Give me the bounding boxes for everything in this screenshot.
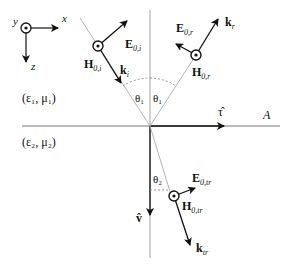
E-reflected-label: E0,r <box>176 21 194 37</box>
theta2-label: θ₂ <box>153 173 162 185</box>
tangent-label: τ̂ <box>218 105 225 119</box>
E-incident-label: E0,i <box>125 37 141 53</box>
upper-medium-label: (ε₁, μ₁) <box>22 91 56 105</box>
reflected-ray-guide <box>150 55 196 126</box>
incident-wave: E0,i H0,i ki <box>84 21 141 83</box>
theta1-incident-arc <box>123 78 150 86</box>
k-reflected-label: kr <box>225 15 236 31</box>
E-incident-arrow <box>98 21 127 46</box>
reflected-wave: kr E0,r H0,r <box>176 15 236 81</box>
reflection-refraction-diagram: x y z τ̂ A v̂ θ₁ θ₁ θ₂ E0,i H0,i ki kr <box>0 0 293 267</box>
H-incident-label: H0,i <box>84 57 102 73</box>
theta1-incident-label: θ₁ <box>135 92 144 104</box>
y-axis-label: y <box>12 15 18 27</box>
plane-label: A <box>262 108 271 122</box>
k-reflected-arrow <box>196 19 218 55</box>
E-transmitted-label: E0,tr <box>192 171 212 187</box>
coordinate-triad: x y z <box>12 12 67 72</box>
k-transmitted-label: ktr <box>196 241 209 257</box>
transmitted-wave: E0,tr H0,tr ktr <box>169 171 212 257</box>
lower-medium-label: (ε₂, μ₂) <box>22 135 56 149</box>
x-axis-label: x <box>61 12 67 24</box>
H-reflected-label: H0,r <box>192 65 211 81</box>
theta1-reflected-arc <box>150 78 176 86</box>
incident-ray-guide <box>80 18 150 126</box>
H-transmitted-label: H0,tr <box>182 199 204 215</box>
theta1-reflected-label: θ₁ <box>153 92 162 104</box>
normal-label: v̂ <box>136 211 142 225</box>
k-incident-label: ki <box>120 63 129 79</box>
z-axis-label: z <box>30 60 36 72</box>
